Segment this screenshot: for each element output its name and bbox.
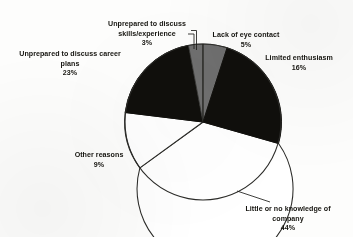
slice-label-other-reasons-percent: 9% — [53, 161, 145, 170]
slice-label-limited-enthusiasm: Limited enthusiasm 16% — [248, 45, 350, 83]
slice-label-little-or-no-knowledge-percent: 44% — [228, 224, 348, 233]
slice-label-career-plans: Unprepared to discuss career plans 23% — [6, 41, 134, 88]
slice-label-career-plans-percent: 23% — [6, 69, 134, 78]
slice-label-little-or-no-knowledge-text: Little or no knowledge of company — [245, 205, 330, 222]
slice-label-skills-experience-text: Unprepared to discuss skills/experience — [108, 20, 186, 37]
slice-label-other-reasons: Other reasons 9% — [53, 142, 145, 180]
pie-chart-figure: Unprepared to discuss skills/experience … — [0, 0, 353, 237]
slice-label-eye-contact-text: Lack of eye contact — [213, 31, 280, 39]
slice-label-limited-enthusiasm-text: Limited enthusiasm — [265, 54, 333, 62]
slice-label-limited-enthusiasm-percent: 16% — [248, 64, 350, 73]
slice-label-other-reasons-text: Other reasons — [75, 151, 124, 159]
slice-label-career-plans-text: Unprepared to discuss career plans — [19, 50, 121, 67]
slice-label-little-or-no-knowledge: Little or no knowledge of company 44% — [228, 196, 348, 237]
